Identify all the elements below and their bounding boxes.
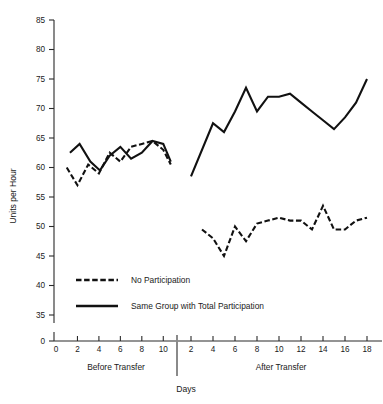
x-tick-label: 12	[296, 345, 306, 354]
panel-label-after-transfer: After Transfer	[256, 362, 307, 372]
panel-label-before-transfer: Before Transfer	[87, 362, 145, 372]
x-tick-label: 6	[118, 345, 123, 354]
y-tick-label: 75	[36, 75, 46, 84]
x-tick-label: 14	[318, 345, 328, 354]
x-tick-label: 4	[97, 345, 102, 354]
y-tick-label: 35	[36, 311, 46, 320]
x-tick-label: 2	[75, 345, 80, 354]
x-tick-label: 4	[211, 345, 216, 354]
y-tick-label: 80	[36, 45, 46, 54]
y-tick-label: 85	[36, 16, 46, 25]
x-tick-label: 2	[189, 345, 194, 354]
x-tick-label: 16	[340, 345, 350, 354]
legend-label-no-participation: No Participation	[131, 275, 190, 285]
chart-container: 85807570656055504540350 Units per Hour 0…	[0, 0, 383, 404]
y-tick-label: 0	[40, 337, 45, 346]
y-tick-label: 50	[36, 222, 46, 231]
x-tick-label: 10	[274, 345, 284, 354]
y-tick-label: 45	[36, 252, 46, 261]
x-tick-label: 8	[140, 345, 145, 354]
y-tick-label: 70	[36, 104, 46, 113]
x-tick-label: 0	[54, 345, 59, 354]
x-tick-label: 18	[362, 345, 372, 354]
chart-background	[0, 0, 383, 404]
y-tick-label: 65	[36, 134, 46, 143]
legend-label-total-participation: Same Group with Total Participation	[131, 301, 264, 311]
y-axis-title: Units per Hour	[8, 168, 18, 224]
y-tick-label: 55	[36, 193, 46, 202]
y-tick-label: 40	[36, 281, 46, 290]
x-tick-label: 10	[159, 345, 169, 354]
x-axis-title: Days	[176, 384, 196, 394]
line-chart: 85807570656055504540350 Units per Hour 0…	[0, 0, 383, 404]
y-tick-label: 60	[36, 163, 46, 172]
x-tick-label: 6	[233, 345, 238, 354]
x-tick-label: 8	[255, 345, 260, 354]
